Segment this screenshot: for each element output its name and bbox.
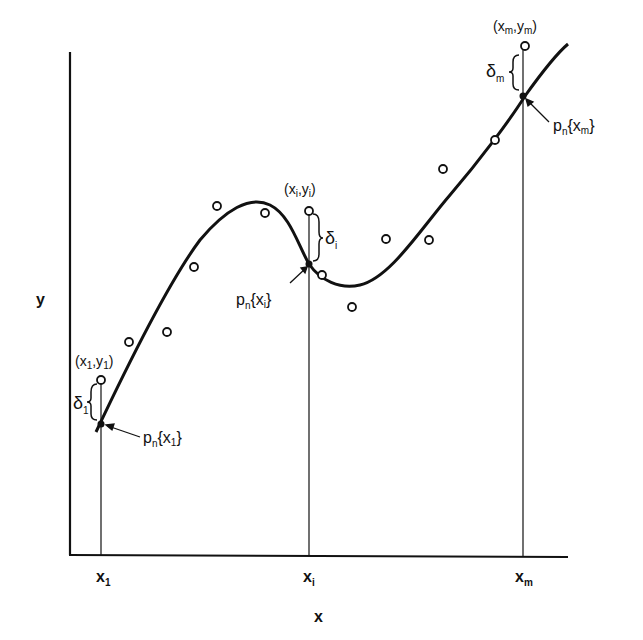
label-poly-xm: pn{xm}	[553, 117, 595, 137]
data-point	[439, 165, 447, 173]
label-poly-xi: pn{xi}	[236, 291, 272, 311]
data-point	[97, 376, 105, 384]
y-axis-label: y	[36, 291, 45, 308]
label-first-point: (x1,y1)	[75, 353, 113, 371]
data-point	[261, 209, 269, 217]
pointer-arrows	[106, 99, 549, 437]
data-point	[213, 202, 221, 210]
axes	[69, 52, 568, 557]
data-point	[491, 136, 499, 144]
label-last-point: (xm,ym)	[493, 18, 537, 36]
data-point	[190, 263, 198, 271]
label-middle-point: (xi,yi)	[284, 181, 316, 199]
label-delta-m: δm	[486, 61, 504, 84]
data-point	[163, 328, 171, 336]
data-point	[382, 235, 390, 243]
guide-lines	[101, 48, 523, 556]
data-point	[318, 271, 326, 279]
x-axis	[69, 555, 568, 557]
label-delta-i: δi	[325, 228, 337, 251]
brace-delta-i	[313, 214, 323, 261]
delta-braces	[87, 55, 519, 420]
fit-point-x1	[98, 421, 105, 428]
data-point	[425, 236, 433, 244]
data-point	[125, 338, 133, 346]
x-axis-label: x	[314, 608, 323, 625]
arrowhead-x1	[106, 424, 114, 430]
tick-xi: xi	[303, 568, 315, 588]
brace-delta-m	[509, 55, 519, 90]
data-points	[97, 42, 529, 384]
data-point	[348, 303, 356, 311]
fit-points	[98, 93, 527, 428]
data-point	[305, 207, 313, 215]
label-delta-1: δ1	[73, 393, 89, 416]
least-squares-diagram: (x1,y1) (xi,yi) (xm,ym) δ1 δi δm pn{x1} …	[0, 0, 643, 640]
tick-x1: x1	[96, 568, 111, 588]
data-point	[521, 42, 529, 50]
label-poly-x1: pn{x1}	[143, 429, 182, 449]
tick-xm: xm	[515, 568, 533, 588]
